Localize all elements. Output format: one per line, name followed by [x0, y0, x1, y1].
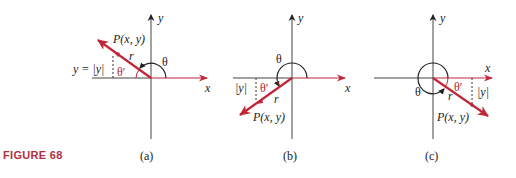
theta-label: θ: [415, 85, 421, 99]
ref-angle-label: θ′: [117, 65, 126, 79]
ref-angle-label: θ′: [454, 80, 463, 94]
panel-b: y x P(x, y) r θ θ′ |y|: [233, 11, 351, 139]
figure-68: y x P(x, y) r θ θ′ y = |y| y x P(x, y) r…: [0, 0, 516, 178]
ref-angle-arc: [446, 78, 449, 87]
point-label: P(x, y): [112, 32, 145, 46]
side-label: y = |y|: [72, 62, 104, 76]
point-label: P(x, y): [436, 110, 469, 124]
ref-angle-label: θ′: [260, 81, 269, 95]
y-axis-label: y: [439, 11, 446, 25]
x-axis-label: x: [484, 61, 491, 75]
point-dot: [470, 103, 474, 107]
panel-b-label: (b): [283, 149, 297, 163]
side-label: |y|: [477, 85, 489, 99]
radius-label: r: [448, 89, 453, 103]
point-label: P(x, y): [252, 110, 285, 124]
panel-c: y x P(x, y) r θ θ′ |y|: [374, 11, 492, 139]
panel-a-label: (a): [140, 149, 153, 163]
y-axis-label: y: [157, 11, 164, 25]
radius-label: r: [274, 92, 279, 106]
ref-angle-arc: [136, 70, 139, 79]
midpoint-arrow-icon: [256, 98, 263, 104]
side-label: |y|: [235, 81, 247, 95]
y-axis-label: y: [297, 11, 304, 25]
radius-label: r: [129, 49, 134, 63]
panel-a: y x P(x, y) r θ θ′ y = |y|: [72, 11, 211, 139]
x-axis-label: x: [204, 81, 211, 95]
figure-caption: FIGURE 68: [3, 149, 63, 161]
panel-c-label: (c): [425, 149, 438, 163]
theta-label: θ: [276, 52, 282, 66]
theta-label: θ: [162, 55, 168, 69]
x-axis-label: x: [344, 81, 351, 95]
